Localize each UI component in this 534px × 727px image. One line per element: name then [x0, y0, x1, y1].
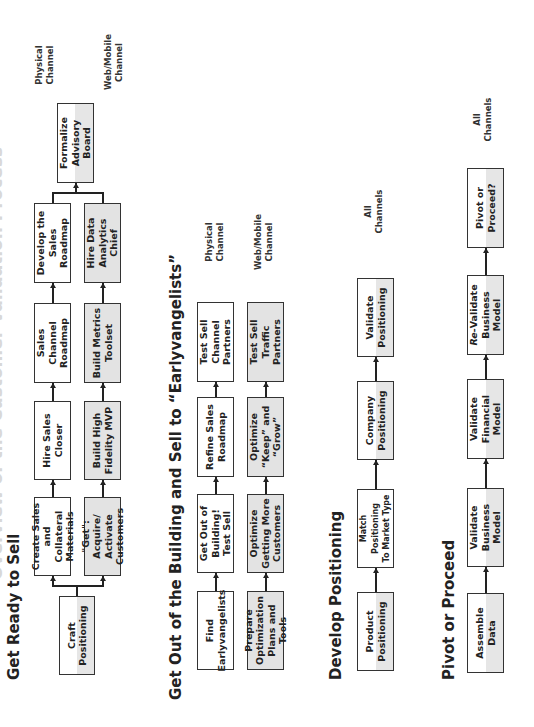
box-test-sell-channel-partners: Test Sell Channel Partners [197, 302, 234, 382]
arrow-icon [483, 248, 489, 253]
box-sales-channel-roadmap: Sales Channel Roadmap [34, 303, 71, 383]
section-title-get-ready: Get Ready to Sell [5, 534, 23, 680]
box-validate-positioning: Validate Positioning [357, 278, 394, 357]
label-all-channels: All Channels [363, 189, 385, 234]
box-label: Prepare Optimization Plans and Tools [243, 594, 289, 667]
box-revalidate-business-model: Re-Validate Business Model [467, 275, 504, 355]
box-build-high-fidelity-mvp: Build High Fidelity MVP [84, 401, 121, 480]
box-product-positioning: Product Positioning [357, 592, 394, 671]
arrow-icon [213, 477, 219, 482]
arrow-icon [73, 183, 79, 188]
box-label: "Get": Acquire/ Activate Customers [80, 500, 126, 573]
box-label: Find Earlyvangelists [204, 589, 227, 671]
box-validate-financial-model: Validate Financial Model [467, 379, 504, 459]
arrow-icon [483, 567, 489, 572]
arrow-icon [100, 383, 106, 388]
box-label: Re-Validate Business Model [468, 278, 503, 352]
box-label: Company Positioning [364, 390, 387, 450]
box-label: Test Sell Traffic Partners [248, 319, 283, 365]
box-label: Validate Business Model [468, 491, 503, 564]
label-physical-channel: Physical Channel [34, 40, 56, 90]
box-label: Product Positioning [364, 601, 387, 661]
box-hire-sales-closer: Hire Sales Closer [34, 401, 71, 480]
arrow-icon [483, 459, 489, 464]
box-refine-sales-roadmap: Refine Sales Roadmap [197, 397, 234, 477]
arrow-icon [100, 576, 106, 581]
arrow-icon [50, 480, 56, 485]
box-label: Validate Positioning [364, 287, 387, 347]
box-label: Sales Channel Roadmap [35, 306, 70, 380]
box-optimize-keep-grow: Optimize “Keep” and “Grow” [247, 397, 284, 477]
arrow-icon [100, 480, 106, 485]
box-label: Develop the Sales Roadmap [35, 211, 70, 276]
box-label: Match Positioning To Market Type [358, 492, 393, 565]
arrow-icon [373, 568, 379, 573]
box-label: Craft Positioning [66, 605, 89, 665]
arrow-icon [263, 477, 269, 482]
box-build-metrics-toolset: Build Metrics Toolset [84, 303, 121, 383]
box-label: Build High Fidelity MVP [91, 407, 114, 474]
box-label: Test Sell Channel Partners [198, 319, 233, 365]
label-all-channels: All Channels [472, 97, 494, 142]
box-formalize-advisory-board: Formalize Advisory Board [57, 103, 94, 183]
arrow-icon [50, 383, 56, 388]
box-craft-positioning: Craft Positioning [59, 596, 95, 675]
box-label: Optimize Getting More Customers [248, 498, 283, 569]
arrow-icon [263, 382, 269, 387]
diagram-canvas: Overview of the Customer Validation Proc… [0, 0, 534, 727]
box-optimize-getting-more: Optimize Getting More Customers [247, 494, 284, 573]
box-label: Validate Financial Model [468, 382, 503, 456]
box-label: Hire Sales Closer [41, 413, 64, 467]
arrow-icon [373, 357, 379, 362]
box-label: Get Out of Building! Test Sell [198, 506, 233, 561]
box-label: Pivot or Proceed? [474, 184, 497, 233]
arrow-icon [483, 355, 489, 360]
box-company-positioning: Company Positioning [357, 381, 394, 460]
arrow-icon [373, 460, 379, 465]
arrow-icon [50, 576, 56, 581]
box-label: Formalize Advisory Board [58, 106, 93, 180]
box-label: Create Sales and Collateral Materials [30, 500, 76, 573]
box-label: Refine Sales Roadmap [204, 404, 227, 470]
italic-prefix: Re- [468, 328, 479, 345]
arrow-icon [263, 573, 269, 578]
box-pivot-or-proceed: Pivot or Proceed? [467, 168, 504, 248]
box-validate-business-model: Validate Business Model [467, 488, 504, 567]
box-match-positioning-market-type: Match Positioning To Market Type [357, 489, 394, 568]
arrow-icon [100, 283, 106, 288]
arrow-icon [50, 283, 56, 288]
box-label: Optimize “Keep” and “Grow” [248, 406, 283, 469]
connector [52, 585, 103, 587]
box-create-sales-materials: Create Sales and Collateral Materials [34, 497, 71, 576]
section-title-pivot-or-proceed: Pivot or Proceed [440, 540, 458, 680]
box-prepare-optimization: Prepare Optimization Plans and Tools [247, 591, 284, 670]
box-get-acquire-activate: "Get": Acquire/ Activate Customers [84, 497, 121, 576]
arrow-icon [213, 382, 219, 387]
box-label: Assemble Data [474, 607, 497, 659]
connector [52, 193, 54, 203]
box-test-sell-traffic-partners: Test Sell Traffic Partners [247, 302, 284, 382]
label-web-mobile-channel: Web/Mobile Channel [103, 35, 125, 90]
box-develop-sales-roadmap: Develop the Sales Roadmap [34, 203, 71, 283]
box-get-out-of-building: Get Out of Building! Test Sell [197, 494, 234, 573]
label-physical-channel: Physical Channel [204, 217, 226, 267]
connector [102, 193, 104, 203]
section-title-get-out: Get Out of the Building and Sell to “Ear… [167, 254, 185, 700]
connector [52, 192, 104, 194]
section-title-develop-positioning: Develop Positioning [327, 511, 345, 680]
box-hire-data-analytics-chief: Hire Data Analytics Chief [84, 203, 121, 283]
box-label: Build Metrics Toolset [91, 308, 114, 378]
box-find-earlyvangelists: Find Earlyvangelists [197, 591, 234, 670]
box-label: Hire Data Analytics Chief [85, 206, 120, 280]
connector [76, 586, 78, 596]
box-assemble-data: Assemble Data [467, 593, 504, 673]
label-web-mobile-channel: Web/Mobile Channel [253, 212, 275, 272]
arrow-icon [213, 573, 219, 578]
